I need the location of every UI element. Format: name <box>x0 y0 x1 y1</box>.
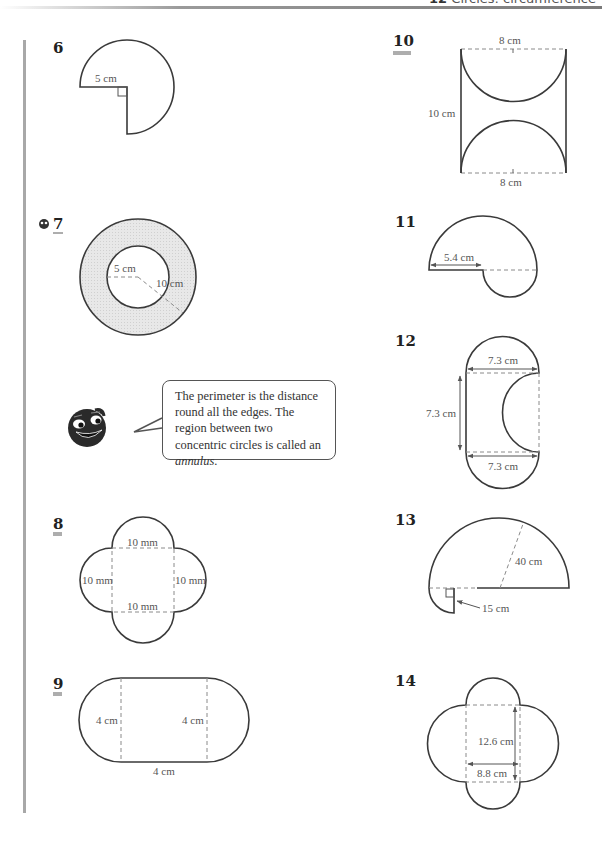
question-number: 8 <box>53 515 63 533</box>
capsule-with-cutout-diagram: 7.3 cm 7.3 cm 7.3 cm <box>426 337 539 489</box>
question-6: 6 5 cm <box>53 39 174 134</box>
height-label: 7.3 cm <box>426 407 456 419</box>
left-height-label: 4 cm <box>96 714 118 726</box>
textbook-page: 12 Circles: circumference 6 5 cm <box>0 0 602 868</box>
bottom-side-label: 10 mm <box>127 600 158 612</box>
three-quarter-circle-diagram: 5 cm <box>80 40 174 134</box>
question-number: 11 <box>395 213 416 231</box>
speech-bubble-tail <box>134 418 162 432</box>
width-label: 8.8 cm <box>477 767 507 779</box>
right-height-label: 4 cm <box>182 714 204 726</box>
inner-radius-label: 5 cm <box>114 262 136 274</box>
height-label: 10 cm <box>428 107 456 119</box>
length-label: 4 cm <box>153 765 175 777</box>
question-number: 6 <box>53 39 63 57</box>
question-11: 11 5.4 cm <box>395 213 537 297</box>
radius-large-label: 40 cm <box>515 555 543 567</box>
hint-text: The perimeter is the distance round all … <box>175 389 321 452</box>
four-semicircle-rectangle-diagram: 12.6 cm 8.8 cm <box>428 678 559 809</box>
radius-label: 5.4 cm <box>444 251 474 263</box>
radius-small-label: 15 cm <box>482 602 510 614</box>
hint-text-end: . <box>214 454 217 468</box>
bottom-width-label: 8 cm <box>500 176 522 188</box>
question-number: 13 <box>395 511 416 529</box>
question-10: 10 8 cm 10 cm 8 cm <box>393 32 566 188</box>
question-number: 7 <box>53 215 63 233</box>
annulus-diagram: 5 cm 10 cm <box>80 219 196 335</box>
top-side-label: 10 mm <box>127 536 158 548</box>
question-14: 14 12.6 cm 8.8 cm <box>395 672 559 809</box>
top-width-label: 7.3 cm <box>488 354 518 366</box>
rectangle-semicircles-diagram: 8 cm 10 cm 8 cm <box>428 34 566 188</box>
question-8: 8 10 mm 10 mm 10 mm 10 mm <box>53 515 206 643</box>
question-7: 7 5 cm 10 cm <box>39 215 196 335</box>
stadium-diagram: 4 cm 4 cm 4 cm <box>79 678 249 777</box>
challenge-icon <box>39 219 49 229</box>
question-number: 9 <box>53 675 63 693</box>
top-width-label: 8 cm <box>499 34 521 46</box>
question-13: 13 40 cm 15 cm <box>395 511 569 614</box>
mascot-icon <box>68 409 106 447</box>
question-9: 9 4 cm 4 cm 4 cm <box>53 675 249 777</box>
left-side-label: 10 mm <box>82 574 113 586</box>
question-number: 10 <box>393 32 414 50</box>
question-number: 12 <box>395 332 416 350</box>
bottom-width-label: 7.3 cm <box>488 460 518 472</box>
semicircle-quarter-circle-diagram: 40 cm 15 cm <box>429 518 569 614</box>
radius-label: 5 cm <box>95 72 117 84</box>
question-number: 14 <box>395 672 416 690</box>
hint-speech-bubble: The perimeter is the distance round all … <box>162 380 336 460</box>
hint-italic-term: annulus <box>175 454 214 468</box>
snail-semicircles-diagram: 5.4 cm <box>429 216 537 297</box>
question-12: 12 7.3 cm 7.3 cm 7.3 cm <box>395 332 539 488</box>
outer-radius-label: 10 cm <box>156 277 184 289</box>
height-label: 12.6 cm <box>478 735 514 747</box>
right-side-label: 10 mm <box>175 574 206 586</box>
four-semicircle-square-diagram: 10 mm 10 mm 10 mm 10 mm <box>80 517 206 643</box>
